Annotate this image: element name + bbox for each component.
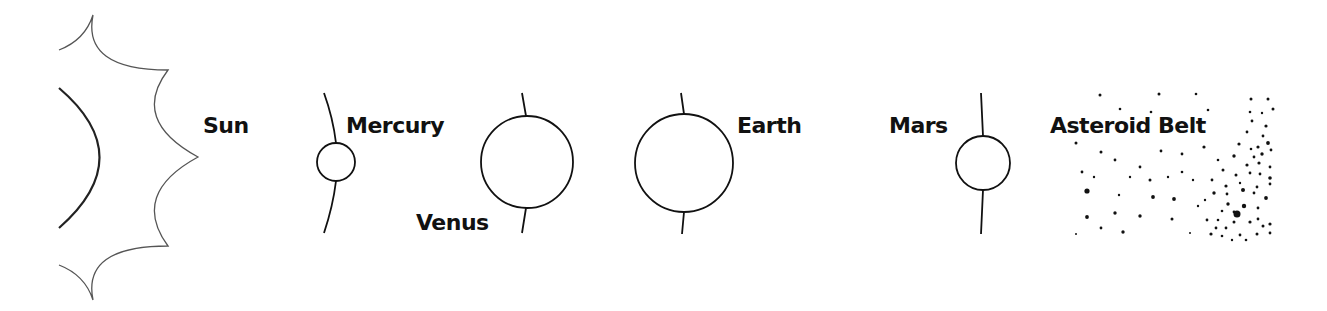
asteroid-dot — [1167, 176, 1169, 178]
asteroid-dot — [1204, 199, 1206, 201]
asteroid-dot — [1235, 174, 1238, 177]
asteroid-dot — [1234, 211, 1241, 218]
sun-body-arc — [59, 88, 100, 228]
sun-group: Sun — [59, 15, 249, 300]
asteroid-dot — [1121, 230, 1124, 233]
sun-corona — [59, 15, 198, 300]
asteroid-dot — [1249, 172, 1252, 175]
asteroid-dot — [1084, 188, 1089, 193]
asteroid-dot — [1245, 239, 1248, 242]
asteroid-dot — [1257, 161, 1260, 164]
asteroid-dot — [1237, 142, 1240, 145]
asteroid-dot — [1211, 179, 1214, 182]
venus-planet-circle — [481, 116, 573, 208]
asteroid-dot — [1181, 153, 1184, 156]
asteroid-dot — [1139, 166, 1142, 169]
mercury-label: Mercury — [346, 113, 444, 138]
asteroid-dot — [1269, 166, 1272, 169]
asteroid-dot — [1217, 219, 1220, 222]
asteroid-dot — [1138, 214, 1141, 217]
venus-label: Venus — [416, 210, 489, 235]
asteroid-dot — [1171, 218, 1174, 221]
asteroid-dot — [1206, 219, 1209, 222]
asteroid-dot — [1253, 192, 1256, 195]
asteroid-dot — [1268, 176, 1272, 180]
asteroid-dot — [1207, 109, 1210, 112]
asteroid-dot — [1262, 135, 1265, 138]
asteroid-dot — [1151, 195, 1155, 199]
asteroid-dot — [1246, 131, 1249, 134]
mercury-planet-circle — [317, 143, 355, 181]
asteroid-dot — [1241, 188, 1245, 192]
asteroid-dot — [1256, 186, 1259, 189]
asteroid-dot — [1245, 163, 1248, 166]
asteroid-belt-group: Asteroid Belt — [1049, 93, 1275, 242]
asteroid-dot — [1225, 227, 1228, 230]
asteroid-dot — [1266, 141, 1270, 145]
asteroid-dot — [1269, 183, 1272, 186]
asteroid-dot — [1231, 239, 1233, 241]
asteroid-dot — [1261, 112, 1263, 114]
asteroid-dot — [1100, 151, 1103, 154]
asteroid-dot — [1093, 176, 1095, 178]
asteroid-dot — [1081, 171, 1084, 174]
asteroid-dot — [1195, 93, 1198, 96]
asteroid-dot — [1189, 232, 1191, 234]
asteroid-dot — [1202, 145, 1205, 148]
asteroid-dot — [1075, 233, 1077, 235]
asteroid-dot — [1248, 220, 1251, 223]
asteroid-dot — [1239, 234, 1242, 237]
asteroid-dot — [1222, 169, 1225, 172]
asteroid-dot — [1100, 227, 1103, 230]
asteroid-dot — [1085, 215, 1089, 219]
asteroid-dot — [1113, 211, 1116, 214]
asteroid-dot — [1249, 111, 1252, 114]
asteroid-dot — [1259, 173, 1262, 176]
asteroid-dot — [1221, 235, 1224, 238]
asteroid-dot — [1212, 191, 1215, 194]
asteroid-dot — [1232, 154, 1235, 157]
earth-label: Earth — [737, 113, 801, 138]
asteroid-dot — [1172, 197, 1176, 201]
asteroid-dot — [1119, 108, 1122, 111]
asteroid-dot — [1217, 159, 1220, 162]
asteroid-dot — [1209, 232, 1212, 235]
asteroid-dot — [1256, 233, 1259, 236]
mars-planet-circle — [956, 136, 1010, 190]
asteroid-dot — [1270, 149, 1273, 152]
asteroid-dot — [1197, 205, 1199, 207]
asteroid-dot — [1260, 152, 1263, 155]
asteroid-dot — [1250, 98, 1253, 101]
mars-label: Mars — [889, 113, 948, 138]
earth-group: Earth — [635, 93, 801, 234]
asteroid-dot — [1257, 218, 1260, 221]
earth-planet-circle — [635, 114, 733, 212]
asteroid-dot — [1099, 94, 1102, 97]
asteroid-dot — [1256, 145, 1259, 148]
asteroid-dot — [1257, 207, 1260, 210]
asteroid-dot — [1114, 159, 1117, 162]
asteroid-dot — [1264, 124, 1267, 127]
asteroid-dot — [1221, 210, 1224, 213]
asteroid-dot — [1242, 204, 1246, 208]
sun-label: Sun — [203, 113, 249, 138]
asteroid-dot — [1251, 120, 1254, 123]
asteroid-dot — [1224, 184, 1227, 187]
asteroid-dot — [1267, 98, 1270, 101]
asteroid-dot — [1268, 222, 1271, 225]
asteroid-belt-label: Asteroid Belt — [1050, 113, 1207, 138]
asteroid-dot — [1272, 108, 1275, 111]
asteroid-dot — [1075, 142, 1078, 145]
asteroid-dot — [1239, 182, 1241, 184]
asteroid-dot — [1264, 196, 1268, 200]
asteroid-dot — [1262, 225, 1265, 228]
asteroid-dot — [1158, 93, 1161, 96]
asteroid-dot — [1181, 171, 1184, 174]
asteroid-dot — [1192, 179, 1194, 181]
asteroid-dot — [1160, 150, 1163, 153]
solar-system-diagram: Sun Mercury Venus Earth Mars Asteroid Be… — [0, 0, 1327, 311]
asteroid-dot — [1215, 227, 1218, 230]
asteroid-dot — [1129, 176, 1131, 178]
asteroid-dot — [1226, 193, 1229, 196]
asteroid-dot — [1149, 179, 1152, 182]
